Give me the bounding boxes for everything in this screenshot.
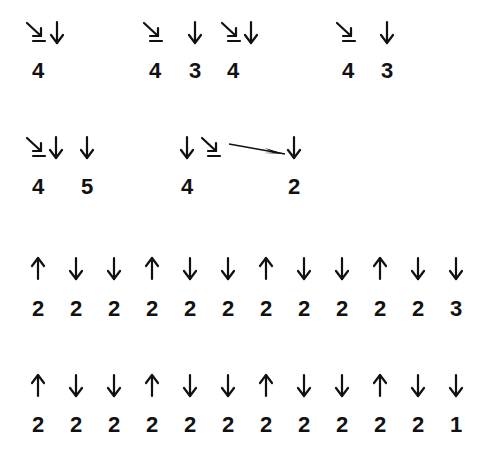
count-label: 3: [377, 60, 397, 82]
count-label: 5: [77, 176, 97, 198]
count-label: 4: [28, 60, 48, 82]
count-label: 2: [370, 298, 390, 320]
count-label: 2: [256, 298, 276, 320]
count-label: 4: [28, 176, 48, 198]
count-label: 2: [408, 298, 428, 320]
count-label: 2: [332, 414, 352, 436]
count-label: 1: [446, 414, 466, 436]
count-label: 3: [185, 60, 205, 82]
count-label: 2: [104, 414, 124, 436]
count-label: 2: [104, 298, 124, 320]
count-label: 2: [28, 298, 48, 320]
count-label: 2: [218, 414, 238, 436]
count-label: 2: [142, 414, 162, 436]
count-label: 2: [180, 414, 200, 436]
count-label: 3: [446, 298, 466, 320]
count-label: 2: [218, 298, 238, 320]
count-label: 2: [142, 298, 162, 320]
count-label: 2: [408, 414, 428, 436]
count-label: 2: [294, 298, 314, 320]
down-arrow-icon: [0, 0, 1, 1]
count-label: 2: [256, 414, 276, 436]
count-label: 2: [66, 414, 86, 436]
count-label: 2: [284, 176, 304, 198]
count-label: 2: [28, 414, 48, 436]
count-label: 4: [145, 60, 165, 82]
count-label: 2: [332, 298, 352, 320]
count-label: 2: [294, 414, 314, 436]
count-label: 2: [66, 298, 86, 320]
count-label: 4: [223, 60, 243, 82]
count-label: 2: [180, 298, 200, 320]
count-label: 4: [338, 60, 358, 82]
count-label: 2: [370, 414, 390, 436]
count-label: 4: [177, 176, 197, 198]
